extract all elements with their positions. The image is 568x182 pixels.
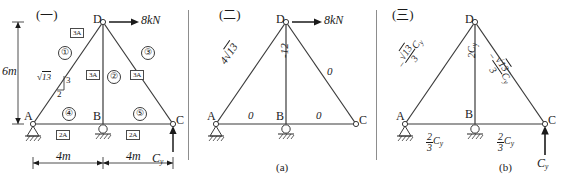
panel-two-graphics (188, 0, 376, 182)
roller-support-b (471, 125, 479, 133)
force-label-bd: 2Cy (467, 43, 479, 58)
panel-three-header: (三) (392, 8, 414, 21)
node-label-c: C (359, 114, 367, 126)
slope-rise-label: 3 (66, 76, 71, 85)
panel-two-header: (二) (219, 8, 241, 21)
roller-support-b (99, 125, 107, 133)
node-label-d: D (93, 13, 102, 25)
hatch-b (468, 134, 483, 139)
dim-label-right: 4m (126, 150, 141, 162)
panel-one-header: (一) (36, 8, 58, 21)
area-label-1: 3A (70, 28, 84, 38)
dim-arrow-l2 (97, 160, 103, 165)
reaction-label-cy: Cy (537, 157, 548, 171)
area-label-5: 2A (126, 130, 140, 140)
reaction-arrow-head (541, 126, 549, 135)
load-label: 8kN (324, 14, 343, 26)
dim-arrow-top (15, 22, 21, 28)
slope-run-label: 2 (57, 90, 62, 99)
node-label-a: A (396, 110, 405, 122)
force-label-ab: 23Cy (426, 131, 443, 154)
member-number-5: ⑤ (133, 107, 147, 121)
reaction-label-cy: Cy (152, 152, 163, 166)
joint-c (542, 121, 547, 126)
joint-c (170, 121, 175, 126)
node-label-a: A (24, 110, 33, 122)
load-arrow-head (131, 19, 139, 26)
member-number-1: ① (58, 46, 72, 60)
load-arrow-head (314, 19, 322, 26)
node-label-d: D (465, 13, 474, 25)
member-number-4: ④ (62, 107, 76, 121)
member-number-3: ③ (141, 46, 155, 60)
dim-label-height: 6m (2, 65, 17, 77)
pin-support-a (399, 126, 411, 136)
node-label-d: D (276, 13, 285, 25)
panel-two: (二) D A B C 8kN 4√13 -12 0 0 0 (a) (188, 0, 376, 182)
area-label-3: 3A (130, 70, 144, 80)
pin-support-a (27, 126, 39, 136)
truss-figure: (一) D A B C 8kN Cy 6m 4m 4m √13 3 2 ① ② … (0, 0, 568, 182)
dim-label-left: 4m (56, 150, 71, 162)
roller-support-b (282, 125, 290, 133)
pin-support-a (210, 126, 222, 136)
hatch-a (398, 136, 413, 141)
node-label-a: A (207, 110, 216, 122)
force-label-bd: -12 (279, 43, 290, 58)
node-label-c: C (548, 114, 556, 126)
panel-two-caption: (a) (276, 162, 288, 173)
load-label: 8kN (141, 14, 160, 26)
node-label-b: B (465, 108, 473, 120)
dim-arrow-bottom (15, 118, 21, 124)
node-label-b: B (276, 110, 284, 122)
hatch-b (96, 134, 111, 139)
dim-arrow-r1 (103, 160, 109, 165)
panel-three: (三) D A B C −√133Cy 2Cy −√133Cy 23Cy 23C… (376, 0, 568, 182)
slope-hypotenuse-label: √13 (37, 73, 51, 82)
dim-arrow-l1 (33, 160, 39, 165)
area-label-2: 3A (86, 70, 100, 80)
member-number-2: ② (107, 70, 121, 84)
force-label-cd: 0 (327, 66, 333, 77)
force-label-ab: 0 (248, 110, 254, 121)
reaction-arrow-head (169, 126, 176, 134)
force-label-bc: 0 (316, 110, 322, 121)
node-label-c: C (176, 114, 184, 126)
panel-three-caption: (b) (499, 162, 512, 173)
hatch-b (279, 134, 294, 139)
hatch-a (26, 136, 41, 141)
panel-three-graphics (376, 0, 568, 182)
dim-arrow-r2 (167, 160, 173, 165)
hatch-a (209, 136, 224, 141)
panel-one: (一) D A B C 8kN Cy 6m 4m 4m √13 3 2 ① ② … (0, 0, 188, 182)
node-label-b: B (93, 110, 101, 122)
joint-c (353, 121, 358, 126)
force-label-bc: 23Cy (497, 131, 514, 154)
area-label-4: 2A (56, 130, 70, 140)
